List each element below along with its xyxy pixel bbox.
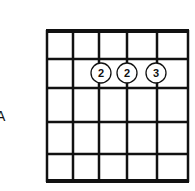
finger-dot-3: 3	[146, 63, 166, 83]
finger-number: 2	[124, 67, 130, 79]
string-lines	[47, 30, 188, 182]
fret-lines	[46, 31, 189, 181]
finger-dot-2: 2	[117, 63, 137, 83]
finger-number: 3	[153, 67, 159, 79]
finger-dot-1: 2	[91, 63, 111, 83]
finger-number: 2	[98, 67, 104, 79]
chord-grid: 2 2 3	[0, 0, 195, 191]
